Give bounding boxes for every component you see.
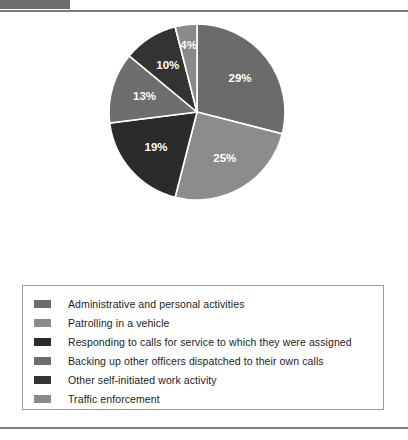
pie-chart-figure: 29%25%19%13%10%4% xyxy=(0,14,408,260)
legend-color-swatch xyxy=(34,338,51,346)
pie-slice-label: 4% xyxy=(180,39,197,51)
legend-item: Administrative and personal activities xyxy=(23,294,383,313)
legend-color-swatch xyxy=(34,357,51,365)
pie-slice-label: 29% xyxy=(229,72,252,84)
legend-item: Backing up other officers dispatched to … xyxy=(23,351,383,370)
legend-item-label: Backing up other officers dispatched to … xyxy=(68,355,324,367)
pie-slice-label: 19% xyxy=(145,141,168,153)
legend-item: Traffic enforcement xyxy=(23,389,383,408)
pie-slice-label: 10% xyxy=(156,59,179,71)
header-tab-marker xyxy=(0,0,70,9)
legend-color-swatch xyxy=(34,376,51,384)
legend-item-label: Administrative and personal activities xyxy=(68,298,245,310)
header-divider-rule xyxy=(0,10,408,12)
legend-item: Responding to calls for service to which… xyxy=(23,332,383,351)
page-header-band xyxy=(0,0,408,12)
legend-item-label: Other self-initiated work activity xyxy=(68,374,217,386)
legend-item-label: Traffic enforcement xyxy=(68,393,160,405)
legend-color-swatch xyxy=(34,300,51,308)
legend-color-swatch xyxy=(34,319,51,327)
pie-slice-label: 13% xyxy=(133,90,156,102)
legend-item: Other self-initiated work activity xyxy=(23,370,383,389)
footer-divider-rule xyxy=(0,427,408,429)
pie-slice-label: 25% xyxy=(213,152,236,164)
pie-chart-svg: 29%25%19%13%10%4% xyxy=(109,24,285,200)
pie-slice-group xyxy=(109,24,285,200)
legend-color-swatch xyxy=(34,395,51,403)
legend-item-label: Patrolling in a vehicle xyxy=(68,317,170,329)
legend-item: Patrolling in a vehicle xyxy=(23,313,383,332)
legend-item-label: Responding to calls for service to which… xyxy=(68,336,352,348)
chart-legend: Administrative and personal activitiesPa… xyxy=(22,285,384,410)
pie-chart-canvas: 29%25%19%13%10%4% xyxy=(109,24,285,200)
